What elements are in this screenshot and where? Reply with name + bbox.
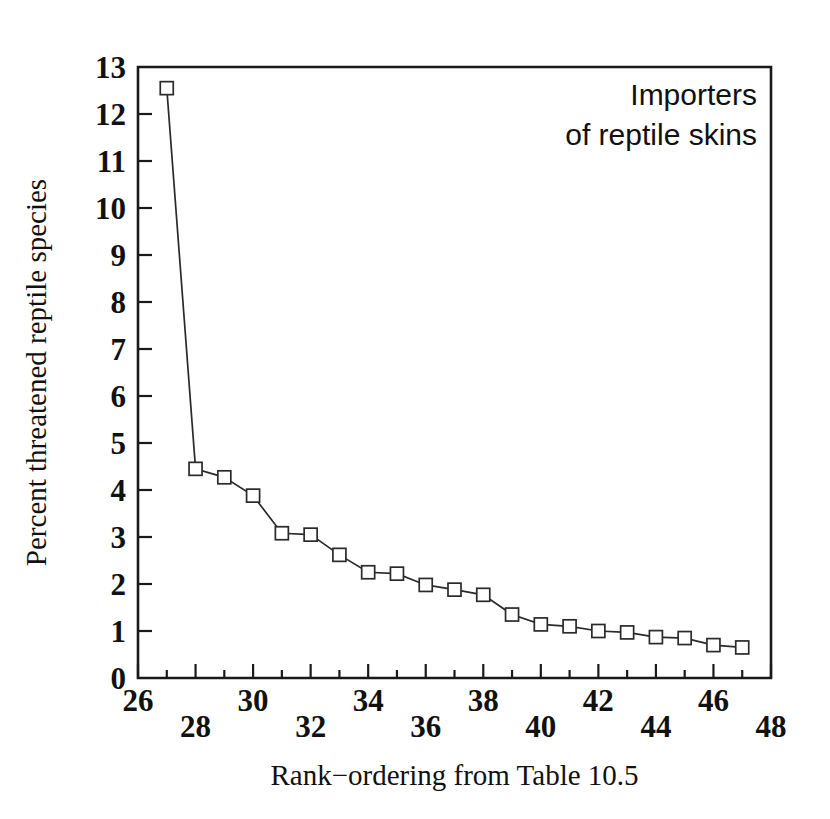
annotation-line-1: Importers: [630, 78, 757, 111]
x-tick-label-32: 32: [295, 709, 326, 744]
data-point-rank-30: [247, 489, 260, 502]
data-point-rank-45: [678, 632, 691, 645]
data-point-rank-37: [448, 583, 461, 596]
y-tick-label-8: 8: [111, 285, 127, 320]
x-tick-label-28: 28: [180, 709, 211, 744]
x-tick-label-34: 34: [353, 683, 384, 718]
y-axis-tick-labels: 012345678910111213: [95, 50, 126, 696]
data-point-rank-32: [304, 528, 317, 541]
chart-canvas: 262830323436384042444648 012345678910111…: [0, 0, 830, 819]
x-axis-ticks: [138, 664, 771, 678]
y-tick-label-13: 13: [95, 50, 126, 85]
data-series-line: [167, 88, 742, 647]
data-point-rank-35: [390, 567, 403, 580]
y-tick-label-2: 2: [111, 567, 127, 602]
x-tick-label-38: 38: [468, 683, 499, 718]
data-point-rank-28: [189, 462, 202, 475]
data-point-rank-33: [333, 548, 346, 561]
x-axis-title: Rank−ordering from Table 10.5: [270, 759, 638, 791]
data-point-rank-43: [621, 626, 634, 639]
y-axis-title: Percent threatened reptile species: [20, 179, 52, 566]
x-tick-label-44: 44: [640, 709, 671, 744]
y-tick-label-12: 12: [95, 97, 126, 132]
data-point-rank-29: [218, 471, 231, 484]
y-tick-label-0: 0: [111, 661, 127, 696]
x-tick-label-26: 26: [123, 683, 154, 718]
data-series-markers: [160, 82, 748, 654]
data-point-rank-27: [160, 82, 173, 95]
y-tick-label-6: 6: [111, 379, 127, 414]
data-point-rank-41: [563, 620, 576, 633]
data-point-rank-39: [506, 608, 519, 621]
y-tick-label-1: 1: [111, 614, 127, 649]
x-tick-label-40: 40: [525, 709, 556, 744]
x-axis-tick-labels: 262830323436384042444648: [123, 683, 787, 744]
chart-figure: 262830323436384042444648 012345678910111…: [0, 0, 830, 819]
y-tick-label-11: 11: [97, 144, 126, 179]
data-point-rank-46: [707, 639, 720, 652]
data-point-rank-47: [736, 641, 749, 654]
y-tick-label-7: 7: [111, 332, 127, 367]
data-point-rank-42: [592, 625, 605, 638]
data-point-rank-31: [275, 527, 288, 540]
y-tick-label-4: 4: [111, 473, 127, 508]
data-point-rank-40: [534, 618, 547, 631]
y-tick-label-5: 5: [111, 426, 127, 461]
y-axis-ticks: [138, 114, 152, 631]
x-tick-label-48: 48: [756, 709, 787, 744]
x-tick-label-30: 30: [238, 683, 269, 718]
y-tick-label-9: 9: [111, 238, 127, 273]
x-tick-label-42: 42: [583, 683, 614, 718]
y-tick-label-3: 3: [111, 520, 127, 555]
annotation-line-2: of reptile skins: [565, 118, 757, 151]
chart-annotation: Importersof reptile skins: [565, 78, 757, 151]
data-point-rank-38: [477, 588, 490, 601]
x-tick-label-36: 36: [410, 709, 441, 744]
x-tick-label-46: 46: [698, 683, 729, 718]
data-point-rank-34: [362, 566, 375, 579]
data-point-rank-36: [419, 578, 432, 591]
y-tick-label-10: 10: [95, 191, 126, 226]
data-point-rank-44: [649, 631, 662, 644]
